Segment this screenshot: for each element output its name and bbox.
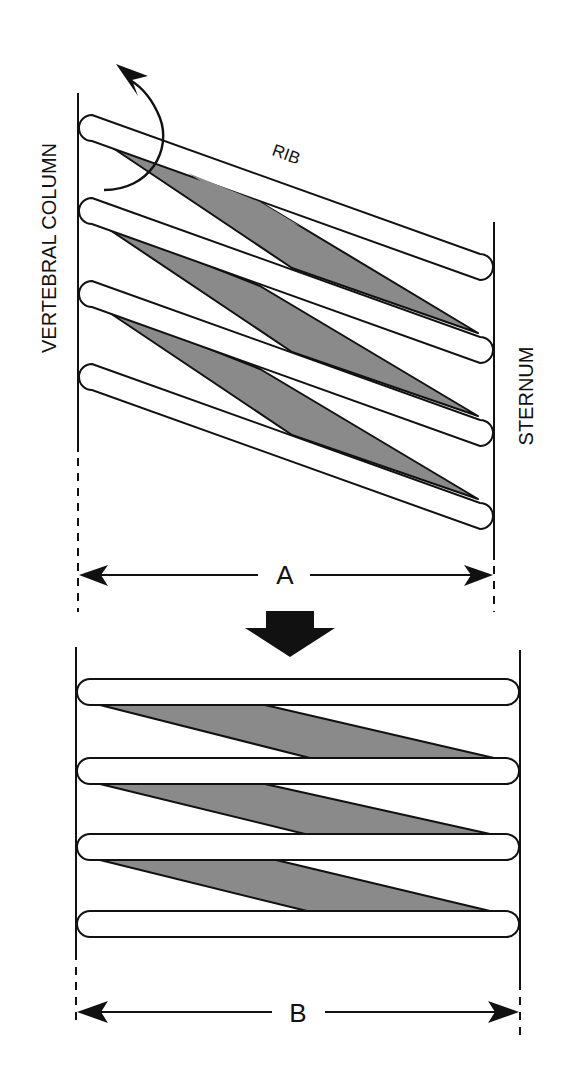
vertebral-column-label: VERTEBRAL COLUMN xyxy=(38,143,60,353)
intercostal-muscle-bottom-1 xyxy=(100,705,494,758)
sternum-label: STERNUM xyxy=(515,347,537,446)
dimension-b: B xyxy=(77,998,519,1028)
rib-cage-mechanics-diagram: RIB VERTEBRAL COLUMN STERNUM A xyxy=(0,0,565,1081)
rib-bottom-4 xyxy=(77,911,519,937)
down-arrow-icon xyxy=(245,611,335,657)
bottom-panel: B xyxy=(76,647,520,1040)
dimension-a-label: A xyxy=(276,560,294,590)
top-panel: RIB VERTEBRAL COLUMN STERNUM A xyxy=(38,64,537,612)
intercostal-muscle-bottom-2 xyxy=(100,784,490,834)
rib-bottom-3 xyxy=(77,834,519,860)
dimension-a: A xyxy=(79,560,493,590)
rib-bottom-2 xyxy=(77,758,519,784)
dimension-b-label: B xyxy=(289,998,306,1028)
rib-bottom-1 xyxy=(77,679,519,705)
rib-label: RIB xyxy=(270,141,303,169)
intercostal-muscle-bottom-3 xyxy=(100,860,490,911)
